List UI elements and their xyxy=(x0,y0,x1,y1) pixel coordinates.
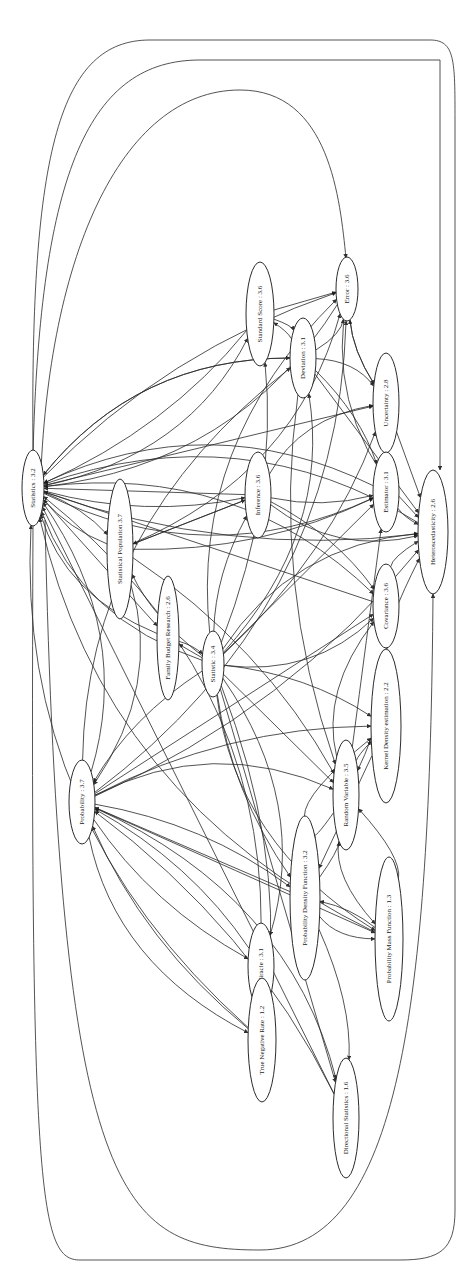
node-label: Deviation : 3.1 xyxy=(299,337,307,379)
edge-true_negative_rate-to-probability xyxy=(93,826,249,1028)
edge-random_variable-to-probability_mass_function xyxy=(338,841,375,924)
node-label: Probability : 3.7 xyxy=(78,779,86,825)
node-label: Statistics : 3.2 xyxy=(29,468,37,508)
node-label: Probability Density Function : 3.2 xyxy=(301,850,309,946)
node-probability-mass-function: Probability Mass Function : 1.3 xyxy=(375,857,403,1021)
node-probability-density-function: Probability Density Function : 3.2 xyxy=(290,816,320,980)
node-family-budget-research: Family Budget Research : 2.6 xyxy=(157,576,179,700)
edge-uncertainty-to-error xyxy=(350,320,374,384)
edge-covariance-to-heteroscedasticity xyxy=(391,541,419,567)
node-directional-statistics: Directional Statistics : 1.6 xyxy=(333,1058,359,1178)
node-statistical-population: Statistical Population 3.7 xyxy=(107,479,133,619)
node-label: Random Variable : 3.5 xyxy=(342,763,350,826)
node-true-negative-rate: True Negative Rate : 1.2 xyxy=(248,978,276,1102)
node-label: Heteroscedasticity : 2.6 xyxy=(429,499,437,565)
edge-inference-to-estimator xyxy=(271,495,373,502)
node-probability: Probability : 3.7 xyxy=(69,760,95,844)
node-label: Statistical Population 3.7 xyxy=(116,513,124,584)
node-label: Probability Mass Function : 1.3 xyxy=(385,894,393,983)
node-label: Uncertainty : 2.8 xyxy=(382,379,390,427)
node-heteroscedasticity: Heteroscedasticity : 2.6 xyxy=(418,470,448,594)
node-statistics: Statistics : 3.2 xyxy=(22,450,44,526)
node-label: Family Budget Research : 2.6 xyxy=(164,596,172,680)
edge-statistic-to-probability_density_function xyxy=(217,694,290,877)
edge-inference-to-covariance xyxy=(271,502,374,590)
node-error: Error : 3.6 xyxy=(336,257,358,321)
edge-random_variable-to-probability_density_function xyxy=(314,813,333,836)
edge-miracle-to-probability xyxy=(95,809,249,948)
node-uncertainty: Uncertainty : 2.8 xyxy=(373,353,399,453)
edge-inference-to-statistics xyxy=(44,488,245,494)
graph-canvas: Statistics : 3.2Statistical Population 3… xyxy=(0,0,475,1286)
edge-statistics-to-uncertainty xyxy=(44,406,373,485)
node-label: Covariance : 3.6 xyxy=(382,582,390,629)
edge-probability-to-probability_mass_function xyxy=(95,808,375,933)
node-label: Error : 3.6 xyxy=(343,274,351,303)
edge-family_budget_research-to-statistics xyxy=(41,515,157,634)
outer-loop-edges xyxy=(33,40,455,1260)
node-covariance: Covariance : 3.6 xyxy=(373,564,399,648)
edge-statistic-to-estimator xyxy=(223,504,373,653)
node-label: Directional Statistics : 1.6 xyxy=(342,1081,350,1154)
edge-probability-to-kernel_density_estimation xyxy=(95,726,371,795)
edge-deviation-to-standard_score xyxy=(274,323,292,339)
node-deviation: Deviation : 3.1 xyxy=(290,318,316,398)
node-label: True Negative Rate : 1.2 xyxy=(258,1005,266,1074)
node-label: Estimator : 3.1 xyxy=(382,471,390,513)
node-layer: Statistics : 3.2Statistical Population 3… xyxy=(22,257,448,1178)
node-label: Statistic : 3.4 xyxy=(209,645,217,682)
node-statistic: Statistic : 3.4 xyxy=(202,631,224,697)
edge-statistic-to-inference xyxy=(214,516,247,631)
edge-layer xyxy=(30,292,421,1094)
edge-probability-to-probability_density_function xyxy=(95,804,290,887)
node-standard-score: Standard Score : 3.6 xyxy=(246,262,274,366)
edge-statistic-to-kernel_density_estimation xyxy=(224,665,371,716)
edge-standard_score-to-error xyxy=(274,292,336,310)
edge-covariance-to-statistics xyxy=(44,492,373,602)
graph-diagram: Statistics : 3.2Statistical Population 3… xyxy=(0,0,475,1286)
edge-statistics-to-standard_score xyxy=(44,338,248,485)
node-kernel-density-estimation: Kernel Density estimation : 2.2 xyxy=(371,649,401,803)
node-random-variable: Random Variable : 3.5 xyxy=(333,740,359,850)
edge-estimator-to-statistics xyxy=(44,445,373,486)
edge-error-to-uncertainty xyxy=(350,320,374,384)
node-estimator: Estimator : 3.1 xyxy=(373,452,399,532)
node-inference: Inference : 3.6 xyxy=(245,452,271,538)
node-label: Kernel Density estimation : 2.2 xyxy=(382,682,390,770)
node-label: Standard Score : 3.6 xyxy=(256,285,264,342)
node-label: Inference : 3.6 xyxy=(254,474,262,515)
